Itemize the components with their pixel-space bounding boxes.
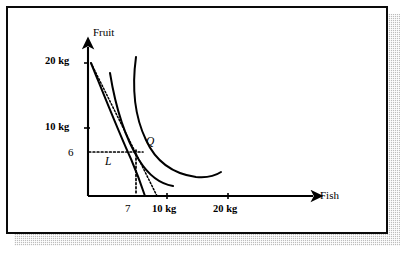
point-label-q: Q	[146, 136, 154, 148]
y-tick-label-6: 6	[68, 147, 74, 158]
x-axis-title: Fish	[320, 190, 339, 201]
indifference-curve-tangent	[134, 57, 221, 177]
x-tick-label-10kg: 10 kg	[152, 204, 176, 215]
production-possibility-frontier	[91, 63, 145, 196]
figure-root: Fruit Fish 20 kg 10 kg 6 7 10 kg 20 kg Q…	[0, 0, 406, 257]
point-label-l: L	[105, 156, 111, 168]
x-tick-label-20kg: 20 kg	[213, 204, 237, 215]
y-axis-title: Fruit	[93, 27, 114, 38]
y-tick-label-20kg: 20 kg	[45, 56, 69, 67]
y-tick-label-10kg: 10 kg	[45, 122, 69, 133]
x-tick-label-7: 7	[125, 203, 131, 214]
